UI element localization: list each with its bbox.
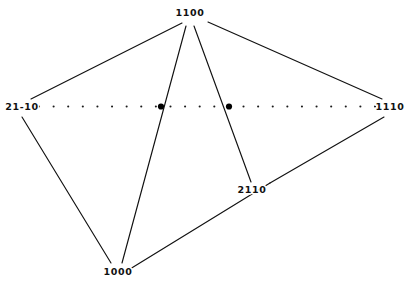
vertex-labels-group: 110021-10111021101000 — [5, 7, 404, 277]
axis-dot — [301, 105, 303, 107]
axis-dot — [242, 105, 244, 107]
axis-dot — [286, 105, 288, 107]
axis-dot — [316, 105, 318, 107]
edge-top-junction-left — [122, 26, 186, 263]
edge-top-left — [31, 23, 182, 99]
axis-dot — [199, 105, 201, 107]
edges-group — [22, 22, 384, 269]
dotted-axis-group — [38, 105, 376, 107]
graph-diagram-svg: 110021-10111021101000 — [0, 0, 410, 282]
edge-bottom-middle — [130, 183, 270, 269]
axis-dot — [345, 105, 347, 107]
axis-dot — [96, 105, 98, 107]
axis-dot — [184, 105, 186, 107]
axis-dot — [272, 105, 274, 107]
edge-top-right — [208, 22, 382, 99]
axis-dot — [169, 105, 171, 107]
axis-dot — [140, 105, 142, 107]
graph-diagram-canvas: 110021-10111021101000 — [0, 0, 410, 282]
axis-dot — [53, 105, 55, 107]
axis-dot — [213, 105, 215, 107]
axis-dot — [67, 105, 69, 107]
edge-top-junction-right — [194, 26, 251, 182]
vertex-label-left: 21-10 — [5, 101, 38, 112]
junction-nodes-group — [158, 103, 232, 109]
edge-middle-right — [270, 117, 384, 183]
junction-left[interactable] — [158, 103, 164, 109]
axis-dot — [126, 105, 128, 107]
axis-dot — [330, 105, 332, 107]
axis-dot — [111, 105, 113, 107]
edge-left-bottom — [22, 117, 111, 263]
junction-right[interactable] — [226, 103, 232, 109]
axis-dot — [359, 105, 361, 107]
vertex-label-top: 1100 — [176, 7, 205, 18]
axis-dot — [155, 105, 157, 107]
vertex-label-right: 1110 — [376, 101, 405, 112]
vertex-label-bottom: 1000 — [104, 266, 133, 277]
vertex-label-middle_right: 2110 — [238, 184, 267, 195]
axis-dot — [82, 105, 84, 107]
axis-dot — [257, 105, 259, 107]
